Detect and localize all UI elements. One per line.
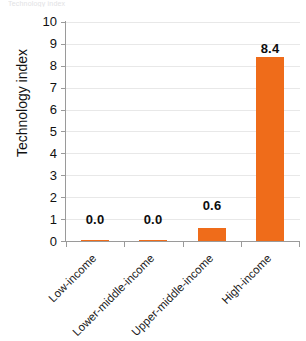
y-tick-label-2: 2 (33, 191, 57, 204)
y-tick-label-0: 0 (33, 235, 57, 248)
bar-value-label-upper-middle-income: 0.6 (182, 198, 242, 213)
bar-value-label-high-income: 8.4 (240, 41, 300, 56)
y-tick-label-8: 8 (33, 59, 57, 72)
x-tick-mark-0 (66, 242, 67, 247)
y-axis-line (65, 21, 66, 242)
y-axis-title: Technology index (14, 38, 30, 168)
y-tick-label-7: 7 (33, 81, 57, 94)
x-tick-mark-4 (299, 242, 300, 247)
y-tick-label-5: 5 (33, 125, 57, 138)
x-axis-line (65, 241, 300, 242)
x-tick-mark-2 (183, 242, 184, 247)
gridline-10 (66, 22, 300, 23)
x-tick-mark-1 (124, 242, 125, 247)
y-tick-label-1: 1 (33, 213, 57, 226)
bar-value-label-lower-middle-income: 0.0 (123, 212, 183, 227)
x-tick-mark-3 (241, 242, 242, 247)
bar-chart: Technology index 10 9 8 7 6 5 4 3 2 1 0 (0, 0, 306, 341)
y-tick-label-6: 6 (33, 103, 57, 116)
y-tick-label-9: 9 (33, 37, 57, 50)
y-tick-label-10: 10 (33, 15, 57, 28)
y-tick-label-3: 3 (33, 169, 57, 182)
bar-high-income[interactable] (256, 57, 284, 241)
bar-upper-middle-income[interactable] (198, 228, 226, 241)
y-tick-label-4: 4 (33, 147, 57, 160)
bar-value-label-low-income: 0.0 (65, 212, 125, 227)
